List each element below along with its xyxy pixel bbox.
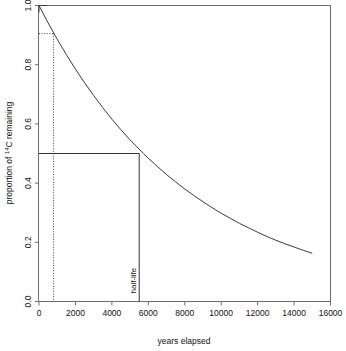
- decay-curve: [39, 6, 312, 254]
- x-tick-label: 8000: [175, 308, 194, 318]
- x-tick-label: 6000: [139, 308, 158, 318]
- half-life-annotation: half-life: [129, 267, 138, 293]
- y-axis-title-prefix: proportion of: [4, 154, 14, 204]
- y-tick-label: 1.0: [23, 0, 33, 11]
- decay-chart: 0200040006000800010000120001400016000 0.…: [0, 0, 346, 351]
- x-axis-title: years elapsed: [158, 336, 211, 346]
- x-tick-label: 12000: [246, 308, 270, 318]
- y-tick-label: 0.6: [23, 118, 33, 130]
- x-axis-ticks: [39, 302, 331, 306]
- y-tick-label: 0.8: [23, 59, 33, 71]
- y-tick-label: 0.0: [23, 295, 33, 307]
- half-life-guides: [39, 154, 139, 302]
- y-tick-label: 0.2: [23, 236, 33, 248]
- x-tick-label: 16000: [319, 308, 343, 318]
- y-axis-tick-labels: 0.00.20.40.60.81.0: [23, 0, 33, 307]
- svg-text:proportion of 14C remaining: proportion of 14C remaining: [4, 101, 14, 204]
- y-axis-title: proportion of 14C remaining: [4, 101, 14, 204]
- curve-start-arrow-icon: [39, 6, 47, 13]
- x-tick-label: 4000: [102, 308, 121, 318]
- x-tick-label: 14000: [282, 308, 306, 318]
- y-tick-label: 0.4: [23, 177, 33, 189]
- x-axis-tick-labels: 0200040006000800010000120001400016000: [37, 308, 343, 318]
- chart-container: 0200040006000800010000120001400016000 0.…: [0, 0, 346, 351]
- x-tick-label: 2000: [66, 308, 85, 318]
- x-tick-label: 0: [37, 308, 42, 318]
- y-axis-title-suffix: C remaining: [4, 101, 14, 147]
- x-tick-label: 10000: [209, 308, 233, 318]
- sample-age-guides: [39, 34, 54, 302]
